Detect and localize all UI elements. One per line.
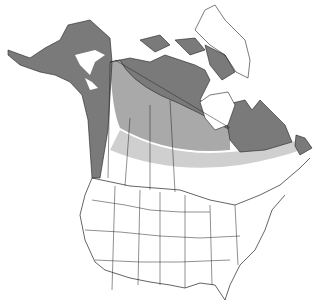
range-map [0,0,325,302]
range-dark-newfoundland [295,135,312,155]
us-outline [80,178,285,300]
north-america-map [0,0,325,302]
range-dark-alaska [8,20,112,178]
